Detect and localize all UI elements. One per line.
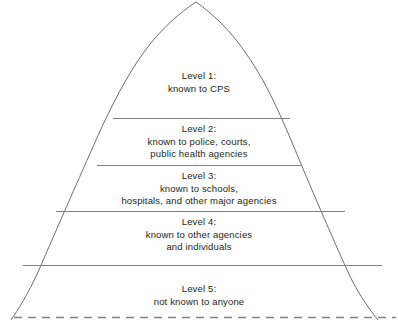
pyramid-outline-graphic [0, 0, 398, 324]
pyramid-left-edge [11, 2, 196, 320]
pyramid-diagram: Level 1: known to CPS Level 2: known to … [0, 0, 398, 324]
pyramid-right-edge [196, 2, 378, 320]
